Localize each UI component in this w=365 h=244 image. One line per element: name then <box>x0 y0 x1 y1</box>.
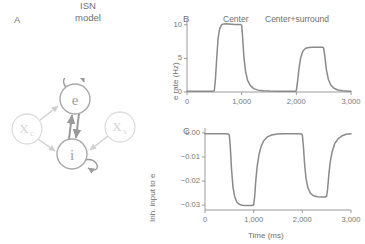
y-tick-label: −0.02 <box>181 176 200 185</box>
node-xc-label: X <box>19 121 29 136</box>
panel-c-y-axis-title: Inh. input to e <box>148 174 157 222</box>
node-i-label: i <box>70 147 74 163</box>
connection-i-to-e <box>69 115 72 139</box>
node-e-label: e <box>72 92 79 108</box>
y-tick-label: −0.03 <box>181 200 200 209</box>
isn-model-title: ISN model <box>0 0 176 24</box>
node-xs-subscript: s <box>124 127 127 136</box>
x-tick-label: 0 <box>183 215 227 224</box>
connection-xc-to-e <box>39 106 58 121</box>
connection-xc-to-i <box>38 139 55 151</box>
node-xs-label: X <box>112 119 122 134</box>
node-i-inhibitory: i <box>57 139 87 169</box>
x-tick-label: 1,000 <box>220 97 264 106</box>
y-tick-label: −0.01 <box>181 152 200 161</box>
isn-title-line2: model <box>0 12 176 24</box>
y-tick-label: 0 <box>178 87 182 96</box>
isn-title-line1: ISN <box>0 0 176 12</box>
node-xc-center-input: X c <box>12 114 42 144</box>
y-tick-label: 0.00 <box>185 128 200 137</box>
x-tick-label: 2,000 <box>280 215 324 224</box>
isn-circuit-diagram: X c X s e i <box>10 78 160 188</box>
x-axis-title: Time (ms) <box>248 231 284 240</box>
connection-e-to-i <box>76 114 79 139</box>
x-tick-label: 1,000 <box>232 215 276 224</box>
node-xs-surround-input: X s <box>105 112 135 142</box>
x-tick-label: 3,000 <box>329 215 365 224</box>
y-tick-label: 10 <box>174 20 182 29</box>
x-tick-label: 2,000 <box>274 97 318 106</box>
x-tick-label: 3,000 <box>329 97 365 106</box>
y-tick-label: 5 <box>178 53 182 62</box>
node-e-excitatory: e <box>60 84 90 114</box>
x-tick-label: 0 <box>165 97 209 106</box>
connection-xs-to-i <box>90 136 108 150</box>
